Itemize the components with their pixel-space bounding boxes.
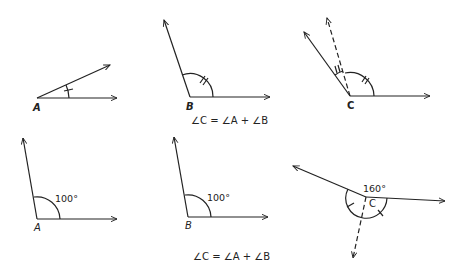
bottom-angle-c [293, 166, 445, 258]
bottom-equation: ∠C = ∠A + ∠B [193, 251, 270, 262]
top-vertex-label-a: A [32, 102, 41, 113]
bottom-vertex-label-a: A [33, 222, 41, 233]
bottom-angle-a-measure: 100° [55, 193, 78, 204]
top-angle-a [37, 65, 117, 98]
bottom-vertex-label-b: B [185, 220, 192, 231]
bottom-vertex-label-c: C [369, 198, 376, 209]
top-vertex-label-b: B [186, 101, 194, 112]
bottom-angle-a [23, 138, 117, 219]
top-angle-c [304, 18, 430, 96]
bottom-angle-b-measure: 100° [207, 192, 230, 203]
bottom-angle-c-measure: 160° [363, 183, 386, 194]
top-vertex-label-c: C [347, 100, 354, 111]
bottom-angle-b [174, 137, 268, 217]
angle-addition-diagram: A B ∠C = ∠A + ∠B C 100° A 100° B ∠C = ∠A… [0, 0, 459, 273]
top-angle-b [164, 20, 270, 97]
top-equation: ∠C = ∠A + ∠B [191, 115, 268, 126]
